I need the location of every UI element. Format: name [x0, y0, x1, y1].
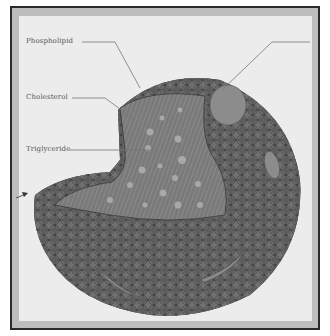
label-phospholipid: Phospholipid	[26, 37, 73, 45]
lipoprotein-diagram	[0, 0, 330, 336]
label-cholesterol: Cholesterol	[26, 93, 68, 101]
label-triglyceride: Triglyceride	[26, 145, 70, 153]
protein-large	[210, 85, 246, 125]
protein-leader	[222, 42, 310, 90]
phospholipid-leader	[82, 42, 140, 88]
cutaway-core	[55, 94, 226, 220]
arrow-head-icon	[22, 192, 28, 197]
